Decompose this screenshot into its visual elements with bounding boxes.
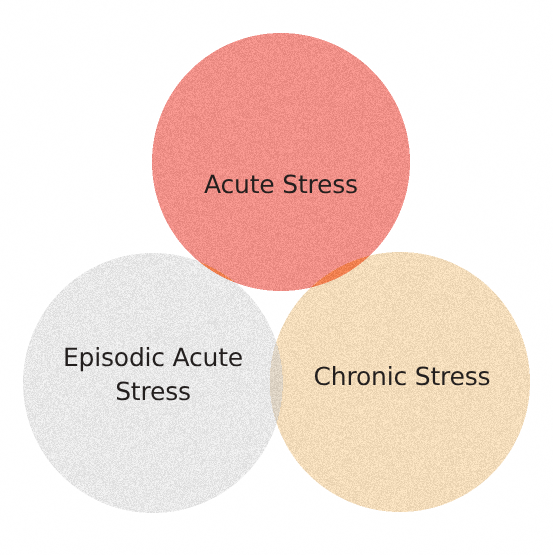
venn-diagram: Acute Stress Episodic Acute Stress Chron… — [0, 0, 553, 555]
venn-circles-canvas — [0, 0, 553, 555]
